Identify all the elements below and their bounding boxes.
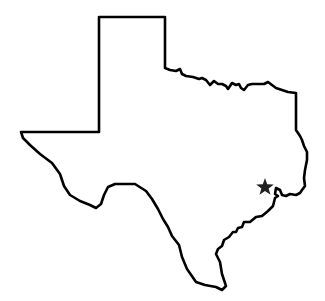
star-icon: [256, 178, 274, 195]
texas-outline: [21, 17, 307, 290]
texas-map: [0, 0, 325, 301]
